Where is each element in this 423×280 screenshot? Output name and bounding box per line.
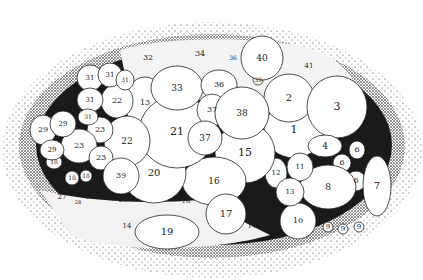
cell-label: 15 xyxy=(238,146,252,159)
cell-label: 28 xyxy=(86,194,92,200)
cell-label: 38 xyxy=(236,108,248,118)
cell-label: 37 xyxy=(199,133,211,143)
cell-label: 29 xyxy=(48,146,57,154)
cell-label: 39 xyxy=(116,171,126,180)
cell-label: 9 xyxy=(341,225,345,233)
cell-label: 23 xyxy=(96,153,106,162)
cell-label: 3 xyxy=(334,100,341,113)
cell-label: 6 xyxy=(353,176,358,185)
cell-label: 36 xyxy=(229,54,237,61)
cell-label: 8 xyxy=(325,182,331,192)
cell-label: 6 xyxy=(354,145,359,154)
cell-label: 33 xyxy=(171,83,183,93)
cell-label: 29 xyxy=(38,125,48,134)
cell-label: 18 xyxy=(50,158,58,165)
cell-label: 30 xyxy=(60,99,69,107)
cell-label: 37 xyxy=(207,105,217,114)
cell-label: 31 xyxy=(106,71,115,79)
cell-label: 34 xyxy=(195,49,205,58)
cell-label: 5 xyxy=(361,126,365,134)
cell-label: 2 xyxy=(286,92,292,103)
cell-label: 18 xyxy=(182,197,191,205)
cell-label: 31 xyxy=(121,76,129,83)
cell-label: 20 xyxy=(148,167,161,178)
cell-label: 32 xyxy=(143,53,153,62)
cell-label: 23 xyxy=(95,125,105,134)
cell-label: 14 xyxy=(123,222,132,230)
cell-label: 22 xyxy=(121,136,132,146)
cell-label: 31 xyxy=(86,74,95,82)
cell-label: 16 xyxy=(208,176,220,186)
cell-label: 19 xyxy=(161,226,174,237)
cell-label: 31 xyxy=(86,96,95,104)
cell-label: 17 xyxy=(220,208,233,219)
cell-label: 18 xyxy=(68,174,76,181)
cell-label: 36 xyxy=(214,80,224,89)
cell-label: 13 xyxy=(140,98,150,107)
cell-label: 31 xyxy=(84,113,92,120)
cell-label: 7 xyxy=(374,180,380,191)
cell-label: 29 xyxy=(59,120,68,128)
cell-label: 26 xyxy=(119,196,128,204)
cell-label: 40 xyxy=(256,53,268,63)
cell-mass-illustration: 1234566678999101112131314141516171818181… xyxy=(0,0,423,280)
cell-label: 22 xyxy=(112,96,122,105)
cell-label: 13 xyxy=(286,188,295,196)
cell-label: 9 xyxy=(326,223,330,231)
cell-label: 27 xyxy=(58,193,67,201)
cell-label: 39 xyxy=(254,76,262,83)
cell-label: 4 xyxy=(322,141,328,151)
cell-label: 21 xyxy=(170,125,184,138)
cell-label: 28 xyxy=(75,199,81,205)
cell-label: 1 xyxy=(291,123,298,136)
cell-label: 6 xyxy=(339,158,344,167)
cell-label: 14 xyxy=(248,222,257,230)
cell-label: 9 xyxy=(357,223,361,231)
cell-label: 12 xyxy=(272,169,281,177)
cell-label: 18 xyxy=(82,172,90,179)
cell-label: 11 xyxy=(296,163,305,171)
cell-label: 41 xyxy=(305,62,314,70)
cell-label: 10 xyxy=(293,216,303,225)
cell-label: 23 xyxy=(74,141,84,150)
